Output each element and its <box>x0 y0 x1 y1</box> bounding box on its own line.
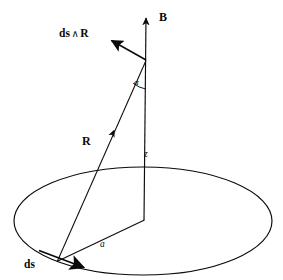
symmetry-axis-line <box>144 18 146 220</box>
cross-product-label: ds∧R <box>59 28 89 40</box>
field-vector-label: B <box>159 11 167 23</box>
diagram-svg <box>0 0 283 280</box>
separation-vector-line <box>57 61 146 263</box>
wedge-operator-icon: ∧ <box>70 28 80 39</box>
line-element-label: ds <box>24 259 35 271</box>
cross-product-R-part: R <box>80 27 88 39</box>
angle-label: α <box>134 78 139 87</box>
loop-radius-label: a <box>100 240 105 250</box>
cross-product-ds-part: ds <box>59 27 70 39</box>
axial-distance-label: z <box>144 150 148 160</box>
figure-canvas: B ds∧R α R z a ds <box>0 0 283 280</box>
cross-product-vector-line <box>112 41 147 61</box>
separation-vector-label: R <box>82 135 91 147</box>
separation-vector-arrowhead <box>96 133 113 172</box>
